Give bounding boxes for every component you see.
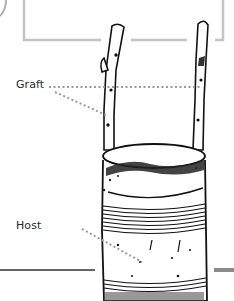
grafting-illustration xyxy=(0,0,234,301)
grafting-diagram: Graft Host xyxy=(0,0,234,301)
right-scion xyxy=(193,21,208,150)
graft-label: Graft xyxy=(16,78,44,91)
host-label: Host xyxy=(16,219,41,232)
graft-leader-lines xyxy=(49,87,200,116)
corner-arc xyxy=(0,0,6,16)
stock-base-shadow xyxy=(104,292,204,301)
bottom-rule-right xyxy=(214,268,234,272)
